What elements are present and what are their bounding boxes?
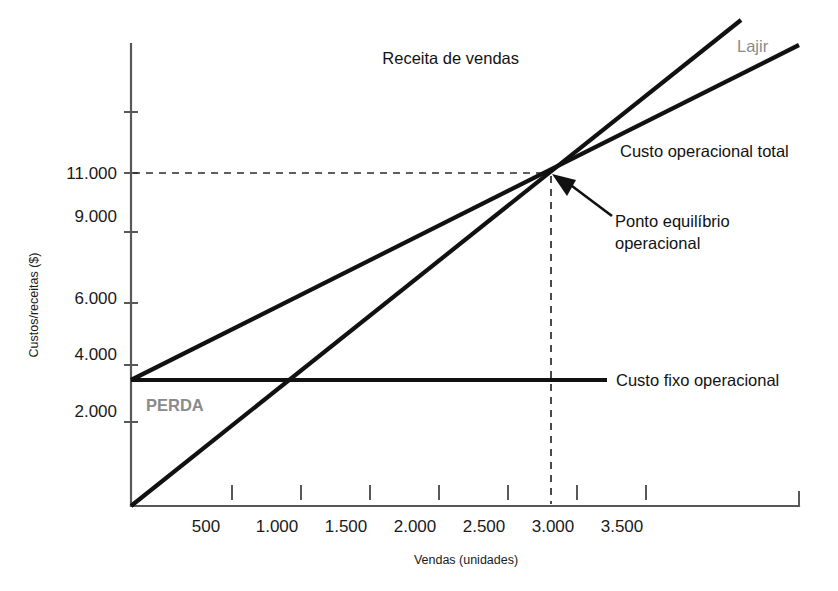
label-sales-revenue: Receita de vendas [382,49,519,67]
x-axis-title: Vendas (unidades) [414,553,518,567]
breakeven-callout: Ponto equilíbrio operacional [552,174,730,252]
x-tick-label-1500: 1.500 [325,517,368,536]
label-perda: PERDA [146,396,204,414]
x-tick-label-3000: 3.000 [532,517,575,536]
series-sales-revenue [131,20,741,506]
x-tick-label-500: 500 [192,517,220,536]
y-tick-label-4000: 4.000 [74,345,117,364]
series-group [131,20,799,506]
y-axis-title: Custos/receitas ($) [27,253,41,358]
y-tick-labels: 11.000 9.000 6.000 4.000 2.000 [66,164,117,421]
y-tick-label-6000: 6.000 [74,289,117,308]
x-tick-label-2000: 2.000 [394,517,437,536]
y-tick-label-2000: 2.000 [74,402,117,421]
x-tick-label-2500: 2.500 [463,517,506,536]
label-breakeven-line-2: operacional [615,234,700,252]
axes-group: 11.000 9.000 6.000 4.000 2.000 500 1.000… [27,44,799,567]
chart-canvas: 11.000 9.000 6.000 4.000 2.000 500 1.000… [0,0,838,591]
breakeven-chart: 11.000 9.000 6.000 4.000 2.000 500 1.000… [0,0,838,591]
x-tick-label-1000: 1.000 [256,517,299,536]
x-ticks [232,485,646,500]
label-fixed-operating-cost: Custo fixo operacional [616,371,779,389]
y-tick-label-9000: 9.000 [74,207,117,226]
breakeven-arrow-head [552,174,576,196]
x-tick-label-3500: 3.500 [601,517,644,536]
label-breakeven-line-1: Ponto equilíbrio [615,212,730,230]
breakeven-leader-line [572,186,612,216]
label-lajir: Lajir [737,37,769,55]
x-tick-labels: 500 1.000 1.500 2.000 2.500 3.000 3.500 [192,517,643,536]
y-tick-label-11000: 11.000 [66,164,117,183]
label-total-operating-cost: Custo operacional total [620,142,789,160]
